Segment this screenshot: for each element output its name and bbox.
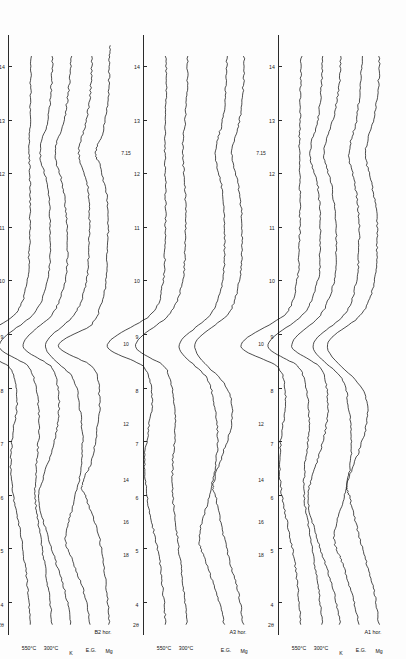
axis-tick-label: 4 [271, 601, 274, 607]
trace-550-c [0, 56, 31, 624]
axis-tick [8, 227, 12, 228]
panel-b2: B2 hor. MgE.G.K300°C550°C456789101112131… [0, 19, 126, 659]
axis-caption-2theta: 2θ [0, 622, 4, 628]
axis-tick [8, 388, 12, 389]
dspacing-label: 10 [258, 342, 264, 348]
axis-tick [143, 334, 147, 335]
panel-title-a3: A3 hor. [229, 629, 246, 635]
trace-mg [195, 56, 245, 624]
axis-tick [278, 388, 282, 389]
axis-tick-label: 10 [269, 279, 275, 285]
dspacing-label: 14 [258, 477, 264, 483]
axis-tick-label: 5 [271, 548, 274, 554]
axis-tick [143, 280, 147, 281]
axis-tick-label: 6 [1, 494, 4, 500]
axis-tick-label: 7 [1, 441, 4, 447]
dspacing-label: 7.15 [121, 150, 131, 156]
traces-a1 [270, 19, 396, 659]
trace-300-c [0, 56, 53, 624]
axis-tick [278, 495, 282, 496]
trace-label-300-c: 300°C [314, 645, 328, 651]
dspacing-label: 12 [123, 421, 129, 427]
dspacing-label: 18 [258, 552, 264, 558]
axis-tick [8, 66, 12, 67]
axis-tick [143, 441, 147, 442]
panel-title-b2: B2 hor. [94, 629, 111, 635]
axis-tick [278, 548, 282, 549]
axis-tick-label: 14 [269, 64, 275, 70]
trace-label-mg: Mg [240, 648, 247, 654]
axis-tick-label: 11 [0, 225, 5, 231]
axis-tick [8, 602, 12, 603]
axis-tick [143, 66, 147, 67]
trace-label-550-c: 550°C [292, 645, 306, 651]
trace-label-mg: Mg [375, 648, 382, 654]
trace-label-300-c: 300°C [44, 645, 58, 651]
axis-tick-label: 12 [269, 171, 275, 177]
axis-tick-label: 5 [1, 548, 4, 554]
trace-label-e-g-: E.G. [86, 647, 96, 653]
axis-tick-label: 10 [134, 279, 140, 285]
axis-tick-label: 7 [136, 441, 139, 447]
trace-label-mg: Mg [105, 648, 112, 654]
trace-300-c [136, 56, 189, 624]
dspacing-label: 16 [258, 519, 264, 525]
dspacing-label: 18 [123, 552, 129, 558]
axis-tick-label: 11 [269, 225, 274, 231]
trace-label-550-c: 550°C [157, 645, 171, 651]
axis-tick [8, 334, 12, 335]
axis-tick [8, 441, 12, 442]
axis-tick [278, 334, 282, 335]
trace-300-c [268, 56, 323, 624]
axis-tick-label: 14 [0, 64, 5, 70]
traces-b2 [0, 19, 126, 659]
trace-label-300-c: 300°C [179, 645, 193, 651]
axis-tick-label: 13 [134, 118, 140, 124]
axis-tick-label: 13 [269, 118, 275, 124]
traces-a3 [135, 19, 261, 659]
axis-tick [143, 227, 147, 228]
axis-tick [278, 173, 282, 174]
axis-tick [143, 602, 147, 603]
axis-tick-label: 9 [136, 334, 139, 340]
axis-tick [8, 548, 12, 549]
axis-tick [278, 280, 282, 281]
axis-tick [278, 66, 282, 67]
axis-tick-label: 10 [0, 279, 5, 285]
axis-tick [8, 495, 12, 496]
trace-label-550-c: 550°C [22, 645, 36, 651]
axis-tick [278, 120, 282, 121]
dspacing-label: 12 [258, 421, 264, 427]
axis-caption-2theta: 2θ [268, 622, 274, 628]
axis-tick-label: 9 [271, 334, 274, 340]
trace-e-g- [179, 56, 227, 624]
axis-tick [143, 548, 147, 549]
axis-tick-label: 14 [134, 64, 140, 70]
axis-tick-label: 9 [1, 334, 4, 340]
axis-tick-label: 4 [136, 601, 139, 607]
axis-tick [143, 495, 147, 496]
trace-label-e-g-: E.G. [221, 647, 231, 653]
trace-e-g- [313, 56, 362, 624]
dspacing-label: 14 [123, 477, 129, 483]
axis-tick [8, 280, 12, 281]
dspacing-label: 7.15 [256, 150, 266, 156]
trace-e-g- [45, 56, 92, 624]
axis-tick-label: 8 [1, 387, 4, 393]
axis-tick-label: 11 [134, 225, 139, 231]
axis-tick [278, 602, 282, 603]
axis-tick-label: 7 [271, 441, 274, 447]
axis-tick [8, 173, 12, 174]
axis-tick [278, 441, 282, 442]
axis-tick-label: 12 [134, 171, 140, 177]
axis-tick-label: 8 [271, 387, 274, 393]
dspacing-label: 16 [123, 519, 129, 525]
axis-tick-label: 5 [136, 548, 139, 554]
axis-tick [8, 120, 12, 121]
panel-a3: A3 hor. MgE.G.300°C550°C4567891011121314… [135, 19, 261, 659]
axis-tick-label: 12 [0, 171, 5, 177]
panel-a1: A1 hor. MgE.G.K300°C550°C456789101112131… [270, 19, 396, 659]
trace-label-e-g-: E.G. [356, 647, 366, 653]
axis-tick-label: 8 [136, 387, 139, 393]
axis-tick [278, 227, 282, 228]
